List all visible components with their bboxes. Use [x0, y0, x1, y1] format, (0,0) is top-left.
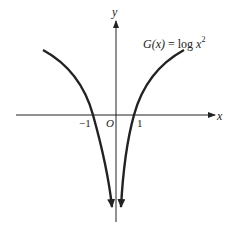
x-tick-label-neg1: −1: [79, 118, 91, 129]
curve-left-branch: [43, 50, 112, 207]
function-arg: (x): [152, 37, 165, 51]
y-axis-label: y: [112, 6, 117, 18]
function-exponent: 2: [201, 35, 205, 44]
curve-right-branch: [121, 50, 184, 207]
origin-label: O: [106, 118, 114, 129]
function-name: G: [143, 37, 152, 51]
graph-canvas: [0, 0, 232, 228]
function-rhs: = log: [165, 37, 196, 51]
function-label: G(x) = log x2: [143, 36, 205, 50]
graph-log-x-squared: G(x) = log x2 x y −1 O 1: [0, 0, 232, 228]
x-axis-label: x: [217, 110, 222, 122]
x-tick-label-1: 1: [137, 118, 143, 129]
